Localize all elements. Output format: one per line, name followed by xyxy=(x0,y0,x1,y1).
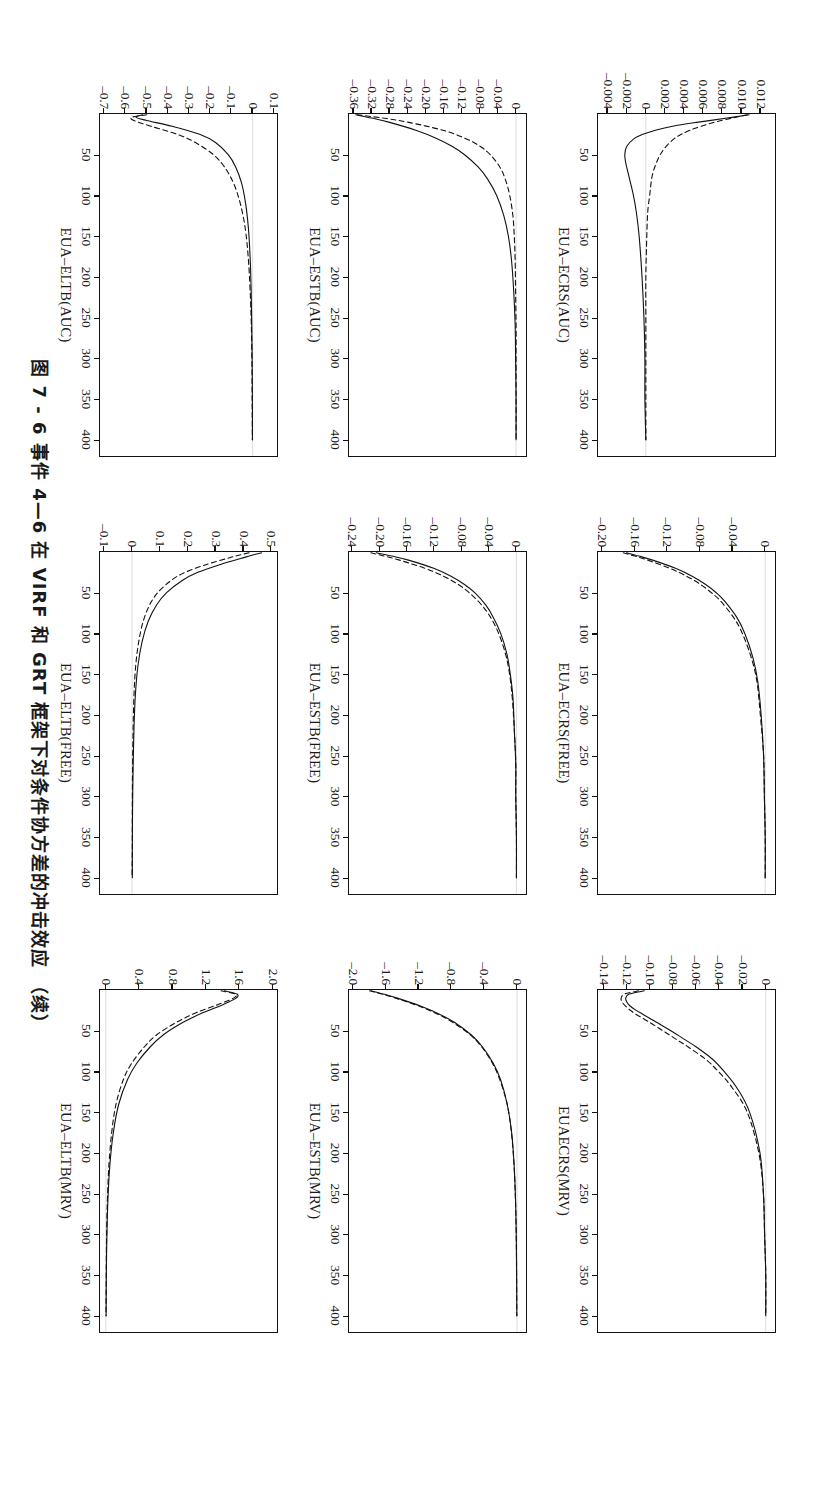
y-axis-tick-label: 0.1 xyxy=(267,92,281,108)
panel-grid: 0.0120.0100.0080.0060.0040.0020–0.002–0.… xyxy=(47,51,782,1341)
y-axis-tick-label: –0.12 xyxy=(661,517,675,546)
x-axis-tick-label: 150 xyxy=(80,226,94,246)
x-axis-tick-label: 400 xyxy=(578,429,592,449)
x-axis-tick-label: 100 xyxy=(578,185,592,205)
x-axis-tick-label: 50 xyxy=(578,147,592,161)
x-axis-tick-label: 50 xyxy=(80,1023,94,1037)
plot-area: 0.50.40.30.20.10–0.150100150200250300350… xyxy=(99,551,278,895)
y-axis-tick-label: –0.6 xyxy=(119,86,133,109)
x-axis-tick-label: 100 xyxy=(329,1061,343,1081)
y-axis-tick-label: –0.04 xyxy=(491,79,505,108)
y-axis-tick-label: –0.14 xyxy=(597,955,611,984)
x-axis-tick-label: 200 xyxy=(329,704,343,724)
y-axis-tick-label: –0.20 xyxy=(595,517,609,546)
x-axis-tick-label: 50 xyxy=(578,1023,592,1037)
y-axis-tick-label: 0 xyxy=(510,978,524,985)
y-axis-tick-label: 0.012 xyxy=(754,79,768,108)
y-axis-tick-label: 0.1 xyxy=(153,530,167,546)
y-axis-tick-label: –0.16 xyxy=(628,517,642,546)
grt-curve xyxy=(357,114,516,439)
y-axis-tick-label: –0.12 xyxy=(620,955,634,984)
grt-curve xyxy=(621,990,766,1315)
y-axis-tick-label: 0.008 xyxy=(716,79,730,108)
curve-layer xyxy=(598,552,775,894)
x-axis-tick-label: 400 xyxy=(80,1305,94,1325)
x-axis-title: EUA–ESTB(MRV) xyxy=(306,989,323,1333)
curve-layer xyxy=(349,552,526,894)
grt-curve xyxy=(623,552,765,877)
curve-layer xyxy=(100,114,277,456)
y-axis-tick-label: –0.16 xyxy=(437,79,451,108)
x-axis-tick-label: 150 xyxy=(80,1102,94,1122)
x-axis-tick-label: 150 xyxy=(80,664,94,684)
curve-layer xyxy=(100,552,277,894)
virf-curve xyxy=(371,990,517,1315)
x-axis-tick-label: 300 xyxy=(80,786,94,806)
x-axis-tick-label: 250 xyxy=(80,307,94,327)
y-axis-tick-label: –0.16 xyxy=(400,517,414,546)
y-axis-tick-label: 0.002 xyxy=(658,79,672,108)
virf-curve xyxy=(626,990,766,1315)
x-axis-tick-label: 150 xyxy=(329,664,343,684)
chart-panel: 2.01.61.20.80.4050100150200250300350400E… xyxy=(47,927,284,1341)
x-axis-title: EUA–ESTB(AUC) xyxy=(306,113,323,457)
x-axis-tick-label: 250 xyxy=(329,1183,343,1203)
figure-page: 0.0120.0100.0080.0060.0040.0020–0.002–0.… xyxy=(0,0,824,1505)
y-axis-tick-label: 0.010 xyxy=(735,79,749,108)
y-axis-tick-label: 0 xyxy=(125,540,139,547)
y-axis-tick-label: –0.10 xyxy=(643,955,657,984)
x-axis-tick-label: 350 xyxy=(578,388,592,408)
x-axis-tick-label: 300 xyxy=(578,348,592,368)
x-axis-tick-label: 250 xyxy=(80,745,94,765)
x-axis-tick-label: 300 xyxy=(578,1224,592,1244)
chart-panel: 0–0.02–0.04–0.06–0.08–0.10–0.12–0.145010… xyxy=(545,927,782,1341)
y-axis-tick-label: –2.0 xyxy=(346,962,360,985)
y-axis-tick-label: 0 xyxy=(509,102,523,109)
x-axis-tick-label: 50 xyxy=(80,147,94,161)
x-axis-title: EUA–ELTB(AUC) xyxy=(57,113,74,457)
plot-area: 2.01.61.20.80.4050100150200250300350400 xyxy=(99,989,278,1333)
x-axis-tick-label: 250 xyxy=(80,1183,94,1203)
chart-panel: 0–0.04–0.08–0.12–0.16–0.20–0.24501001502… xyxy=(296,489,533,903)
x-axis-title: EUAECRS(MRV) xyxy=(555,989,572,1333)
y-axis-tick-label: 0 xyxy=(759,978,773,985)
y-axis-tick-label: 0.4 xyxy=(133,968,147,984)
y-axis-tick-label: 0 xyxy=(639,102,653,109)
y-axis-tick-label: –0.24 xyxy=(401,79,415,108)
y-axis-tick-label: –0.24 xyxy=(346,517,360,546)
y-axis-tick-label: –1.2 xyxy=(412,962,426,985)
plot-area: 0–0.02–0.04–0.06–0.08–0.10–0.12–0.145010… xyxy=(597,989,776,1333)
x-axis-tick-label: 200 xyxy=(329,266,343,286)
y-axis-tick-label: –0.7 xyxy=(98,86,112,109)
virf-curve xyxy=(356,114,516,439)
x-axis-tick-label: 200 xyxy=(80,704,94,724)
x-axis-tick-label: 300 xyxy=(329,1224,343,1244)
x-axis-tick-label: 350 xyxy=(578,826,592,846)
y-axis-tick-label: –0.1 xyxy=(225,86,239,109)
x-axis-tick-label: 150 xyxy=(578,1102,592,1122)
x-axis-title: EUA–ESTB(FREE) xyxy=(306,551,323,895)
y-axis-tick-label: 0.2 xyxy=(181,530,195,546)
y-axis-tick-label: –0.4 xyxy=(477,962,491,985)
x-axis-tick-label: 350 xyxy=(578,1264,592,1284)
y-axis-tick-label: –0.02 xyxy=(736,955,750,984)
chart-panel: 0.0120.0100.0080.0060.0040.0020–0.002–0.… xyxy=(545,51,782,465)
grt-curve xyxy=(106,990,236,1315)
curve-layer xyxy=(100,990,277,1332)
y-axis-tick-label: 0 xyxy=(246,102,260,109)
x-axis-tick-label: 300 xyxy=(80,1224,94,1244)
x-axis-tick-label: 200 xyxy=(80,266,94,286)
x-axis-tick-label: 300 xyxy=(329,348,343,368)
y-axis-tick-label: 0.5 xyxy=(265,530,279,546)
y-axis-tick-label: 0 xyxy=(510,540,524,547)
y-axis-tick-label: –0.12 xyxy=(428,517,442,546)
y-axis-tick-label: –0.5 xyxy=(140,86,154,109)
x-axis-tick-label: 150 xyxy=(329,1102,343,1122)
x-axis-tick-label: 50 xyxy=(578,585,592,599)
y-axis-tick-label: –0.36 xyxy=(347,79,361,108)
x-axis-tick-label: 50 xyxy=(329,585,343,599)
y-axis-tick-label: 1.2 xyxy=(199,968,213,984)
x-axis-title: EUA–ELTB(FREE) xyxy=(57,551,74,895)
virf-curve xyxy=(625,114,749,439)
y-axis-tick-label: 0.3 xyxy=(209,530,223,546)
